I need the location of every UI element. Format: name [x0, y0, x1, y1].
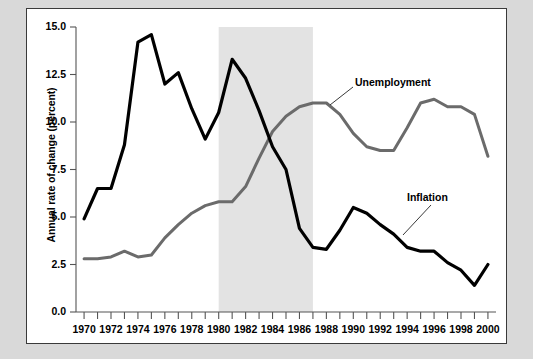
y-tick-label: 5.0 [26, 210, 66, 222]
chart-figure: Annual rate of change (percent) 0.02.55.… [26, 8, 507, 344]
y-tick-label: 0.0 [26, 305, 66, 317]
series-label-unemployment: Unemployment [355, 76, 431, 88]
chart-plot-area [27, 9, 506, 343]
y-tick-label: 2.5 [26, 258, 66, 270]
recession-shading [219, 27, 313, 312]
y-tick-label: 15.0 [26, 20, 66, 32]
x-tick-label: 2000 [471, 323, 505, 335]
series-label-inflation: Inflation [407, 191, 448, 203]
y-tick-label: 7.5 [26, 163, 66, 175]
y-tick-label: 12.5 [26, 68, 66, 80]
y-tick-label: 10.0 [26, 115, 66, 127]
